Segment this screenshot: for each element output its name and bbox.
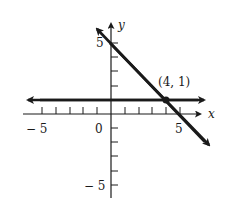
intersection-label: (4, 1) [158, 75, 190, 89]
x-tick-label-zero: 0 [95, 122, 103, 136]
x-tick-label-neg5: − 5 [26, 122, 48, 136]
intersection-point [163, 97, 170, 104]
y-tick-label-neg5: − 5 [84, 179, 106, 193]
x-tick-label-pos5: 5 [175, 122, 183, 136]
x-axis-label: x [208, 107, 215, 121]
y-tick-label-pos5: 5 [96, 36, 104, 50]
y-axis-label: y [117, 18, 125, 32]
coordinate-plane: y x − 5 0 5 5 − 5 (4, 1) [0, 0, 229, 206]
